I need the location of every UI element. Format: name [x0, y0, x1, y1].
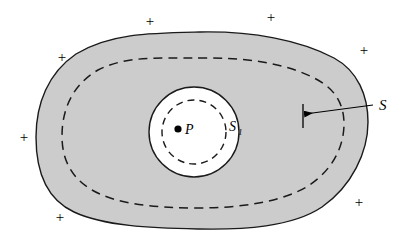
charge-plus-mark: + [146, 13, 154, 29]
charge-plus-mark: + [20, 129, 28, 145]
point-charge-dot [174, 125, 181, 132]
charge-plus-mark: + [267, 9, 275, 25]
label-inner-surface-S1-subscript: 1 [238, 127, 243, 137]
label-outer-surface-S: S [379, 97, 387, 113]
charge-plus-mark: + [56, 209, 64, 225]
label-point-P: P [184, 122, 194, 137]
charge-plus-mark: + [360, 42, 368, 58]
charge-plus-mark: + [355, 194, 363, 210]
label-inner-surface-S1-base: S [229, 119, 236, 134]
charge-plus-mark: + [58, 49, 66, 65]
electrostatics-gauss-surface-diagram: S P S 1 +++++++ [0, 0, 405, 243]
figure-container: S P S 1 +++++++ [0, 0, 405, 243]
